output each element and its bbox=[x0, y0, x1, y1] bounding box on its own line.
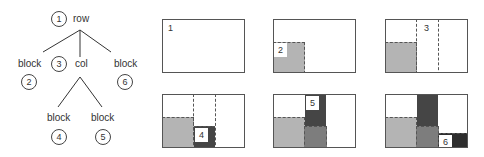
node-label-block-6: block bbox=[114, 58, 137, 69]
node-number-1: 1 bbox=[51, 11, 67, 27]
step-number: 4 bbox=[195, 128, 208, 142]
block-2-region bbox=[273, 117, 305, 148]
layout-tree: 1 row block 2 3 col block 6 block 4 bloc… bbox=[0, 0, 150, 157]
layout-step-4: 4 bbox=[162, 94, 245, 148]
layout-step-1: 1 bbox=[162, 19, 245, 73]
layout-step-5: 5 bbox=[273, 94, 356, 148]
layout-step-6: 6 bbox=[385, 94, 468, 148]
step-number: 1 bbox=[164, 21, 177, 35]
step-number: 5 bbox=[306, 96, 319, 110]
step-number: 6 bbox=[439, 135, 452, 148]
step-number: 3 bbox=[420, 21, 433, 35]
node-number-5: 5 bbox=[95, 129, 111, 145]
block-2-region bbox=[385, 117, 417, 148]
node-number-4: 4 bbox=[51, 129, 67, 145]
node-label-block-2: block bbox=[18, 58, 41, 69]
step-number: 2 bbox=[274, 43, 287, 57]
node-label-block-5: block bbox=[91, 112, 114, 123]
node-label-row: row bbox=[73, 13, 89, 24]
layout-step-3: 3 bbox=[385, 19, 468, 73]
block-2-region bbox=[385, 42, 417, 73]
node-number-2: 2 bbox=[21, 74, 37, 90]
node-number-3: 3 bbox=[51, 56, 67, 72]
block-5-region bbox=[417, 95, 438, 126]
node-label-block-4: block bbox=[47, 112, 70, 123]
node-number-6: 6 bbox=[117, 74, 133, 90]
node-label-col: col bbox=[75, 58, 88, 69]
block-4-region bbox=[304, 126, 327, 148]
block-2-region bbox=[162, 117, 194, 148]
block-4-region bbox=[416, 126, 439, 148]
layout-step-2: 2 bbox=[273, 19, 356, 73]
